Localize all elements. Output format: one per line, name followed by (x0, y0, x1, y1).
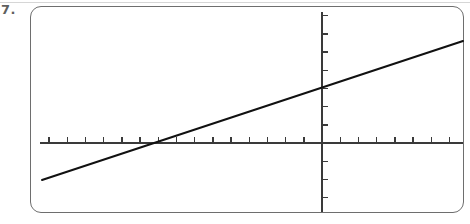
x-axis-group (40, 137, 463, 143)
coordinate-plane (0, 0, 470, 224)
graph-problem-screenshot: 7. (0, 0, 470, 224)
y-axis-group (322, 12, 328, 212)
plotted-line (42, 41, 463, 180)
x-axis-ticks (49, 137, 449, 143)
y-axis-ticks (322, 16, 328, 198)
